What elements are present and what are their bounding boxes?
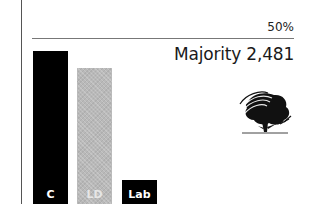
y-axis-line [21,0,22,204]
fifty-percent-line [32,38,294,39]
bar-label: Lab [128,188,150,204]
bar-label: C [46,188,54,204]
bar-label: LD [86,188,102,204]
bar-lab: Lab [122,180,157,204]
bar-c: C [33,51,68,204]
conservative-tree-icon [234,88,294,138]
majority-label: Majority 2,481 [174,44,294,64]
bar-ld: LD [77,68,112,204]
fifty-percent-label: 50% [267,20,294,34]
